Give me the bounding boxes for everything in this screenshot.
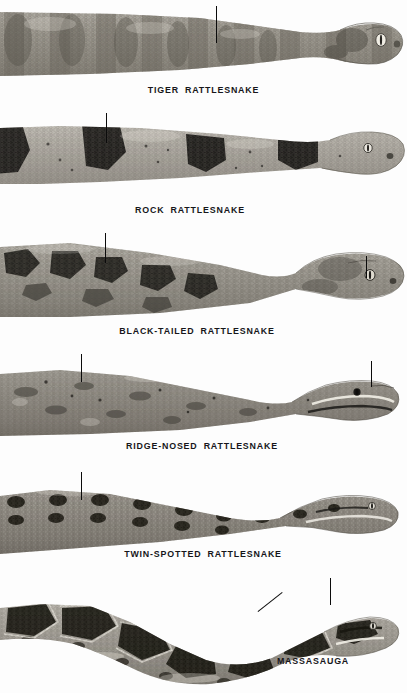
leader-line-massasauga-1 <box>330 578 331 605</box>
caption-ridge-nosed-rattlesnake: RIDGE-NOSED RATTLESNAKE <box>14 440 390 451</box>
figure-tiger-rattlesnake: TIGER RATTLESNAKE <box>0 0 407 104</box>
black-tailed-rattlesnake-illustration <box>0 231 407 335</box>
black-tailed-body <box>0 231 407 335</box>
figure-twin-spotted-rattlesnake: TWIN-SPOTTED RATTLESNAKE <box>0 468 407 568</box>
massasauga-body <box>0 578 407 693</box>
ridge-nosed-rattlesnake-illustration <box>0 352 407 452</box>
leader-line-twin-spotted-1 <box>81 472 82 500</box>
massasauga-illustration <box>0 578 407 693</box>
leader-line-black-tailed-2 <box>366 256 367 278</box>
rattlesnake-plate: TIGER RATTLESNAKE <box>0 0 407 693</box>
figure-massasauga: MASSASAUGA <box>0 578 407 693</box>
figure-rock-rattlesnake: ROCK RATTLESNAKE <box>0 110 407 214</box>
caption-rock-rattlesnake: ROCK RATTLESNAKE <box>13 204 366 215</box>
caption-twin-spotted-rattlesnake: TWIN-SPOTTED RATTLESNAKE <box>14 548 392 559</box>
figure-black-tailed-rattlesnake: BLACK-TAILED RATTLESNAKE <box>0 231 407 335</box>
leader-line-ridge-nosed-2 <box>371 361 372 387</box>
caption-black-tailed-rattlesnake: BLACK-TAILED RATTLESNAKE <box>14 325 380 336</box>
figure-ridge-nosed-rattlesnake: RIDGE-NOSED RATTLESNAKE <box>0 352 407 452</box>
leader-line-tiger-1 <box>216 6 217 43</box>
caption-massasauga: MASSASAUGA <box>245 655 381 666</box>
rock-body <box>0 110 407 214</box>
leader-line-black-tailed-1 <box>105 233 106 263</box>
ridge-nosed-body <box>0 352 407 452</box>
leader-line-ridge-nosed-1 <box>81 354 82 382</box>
leader-line-rock-1 <box>106 113 107 143</box>
caption-tiger-rattlesnake: TIGER RATTLESNAKE <box>14 84 393 95</box>
rock-rattlesnake-illustration <box>0 110 407 214</box>
